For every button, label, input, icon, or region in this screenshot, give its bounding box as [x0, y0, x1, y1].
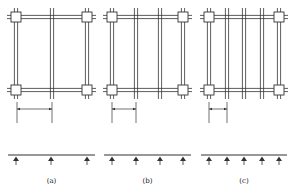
panel-label: (a): [47, 177, 57, 185]
column: [204, 12, 214, 22]
column: [82, 85, 92, 95]
span-dimension: [112, 102, 136, 123]
secondary-beam: [225, 8, 228, 99]
support-arrow-icon: [13, 157, 19, 166]
panel-label: (c): [239, 177, 249, 185]
secondary-beam: [158, 8, 161, 99]
panel-c: (c): [200, 8, 288, 185]
support-arrow-icon: [224, 157, 230, 166]
column: [11, 85, 21, 95]
support-arrow-icon: [180, 157, 186, 166]
support-arrow-icon: [84, 157, 90, 166]
structural-diagram: (a)(b)(c): [0, 0, 295, 190]
panel-label: (b): [143, 177, 153, 185]
column: [11, 12, 21, 22]
span-dimension: [17, 102, 52, 123]
column: [274, 12, 284, 22]
panel-a: (a): [7, 8, 96, 185]
column: [274, 85, 284, 95]
secondary-beam: [260, 8, 263, 99]
continuous-beam-model: [8, 155, 95, 165]
support-arrow-icon: [276, 157, 282, 166]
support-arrow-icon: [241, 157, 247, 166]
secondary-beam: [242, 8, 245, 99]
support-arrow-icon: [133, 157, 139, 166]
continuous-beam-model: [104, 155, 191, 165]
continuous-beam-model: [201, 155, 287, 165]
column: [178, 12, 188, 22]
support-arrow-icon: [259, 157, 265, 166]
column: [107, 12, 117, 22]
support-arrow-icon: [206, 157, 212, 166]
support-arrow-icon: [109, 157, 115, 166]
column: [204, 85, 214, 95]
support-arrow-icon: [157, 157, 163, 166]
span-dimension: [209, 102, 227, 123]
column: [178, 85, 188, 95]
secondary-beam: [134, 8, 137, 99]
support-arrow-icon: [48, 157, 54, 166]
secondary-beam: [50, 8, 53, 99]
panel-b: (b): [103, 8, 192, 185]
column: [82, 12, 92, 22]
column: [107, 85, 117, 95]
